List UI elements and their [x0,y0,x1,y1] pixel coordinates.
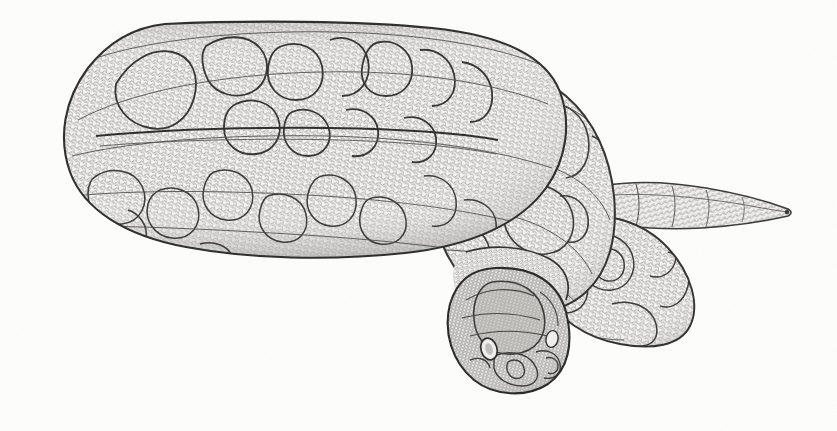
paper-grain [0,0,837,431]
figure-root: Coiled snake [0,0,837,431]
snake-illustration [0,0,837,431]
